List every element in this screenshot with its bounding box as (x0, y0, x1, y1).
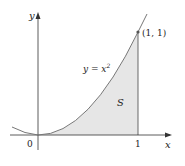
y-axis-label: y (28, 10, 35, 21)
x-tick-label-1: 1 (135, 139, 141, 149)
x-axis-arrow-icon (165, 133, 172, 138)
equation-label: y = x2 (82, 62, 110, 74)
point-label: (1, 1) (142, 28, 166, 38)
region-s (38, 32, 138, 135)
x-axis-label: x (165, 139, 171, 150)
y-axis-arrow-icon (36, 12, 41, 19)
area-under-parabola-diagram: y x 0 1 (1, 1) y = x2 S (0, 0, 185, 166)
origin-label: 0 (27, 139, 33, 149)
region-label: S (117, 97, 124, 108)
point-1-1 (136, 30, 139, 33)
